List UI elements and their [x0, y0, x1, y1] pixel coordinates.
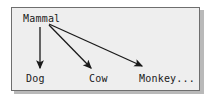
- node-label-monkey: Monkey...: [139, 73, 195, 85]
- diagram-root: Mammal Dog Cow Monkey...: [0, 0, 216, 99]
- node-label-dog: Dog: [26, 73, 45, 85]
- node-label-cow: Cow: [89, 73, 108, 85]
- node-label-mammal: Mammal: [23, 13, 60, 25]
